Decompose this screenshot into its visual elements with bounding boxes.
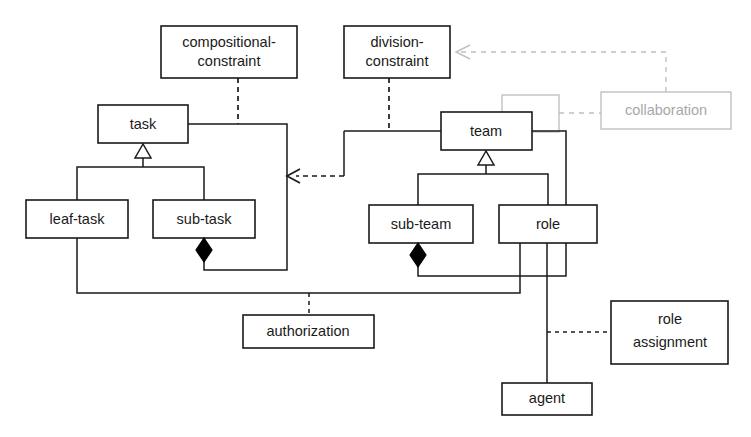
node-authorization[interactable]: authorization bbox=[243, 315, 374, 348]
node-leaf-task[interactable]: leaf-task bbox=[26, 200, 128, 238]
task-label: task bbox=[130, 116, 157, 132]
node-role[interactable]: role bbox=[499, 205, 597, 243]
node-agent[interactable]: agent bbox=[502, 383, 592, 415]
leaf-task-label: leaf-task bbox=[50, 211, 106, 227]
sub-team-composition-diamond bbox=[410, 243, 426, 267]
role-assignment-label-line1: role bbox=[658, 311, 682, 327]
agent-label: agent bbox=[529, 390, 565, 406]
node-sub-team[interactable]: sub-team bbox=[369, 205, 473, 243]
node-division-constraint[interactable]: division- constraint bbox=[344, 26, 450, 78]
team-label: team bbox=[470, 123, 502, 139]
task-generalization-branch bbox=[77, 167, 204, 200]
task-generalization-triangle bbox=[135, 144, 151, 158]
sub-task-composition-diamond bbox=[196, 238, 212, 262]
leaf-task-authorization-path bbox=[77, 238, 520, 293]
diagram-canvas: compositional- constraint division- cons… bbox=[0, 0, 751, 437]
node-compositional-constraint[interactable]: compositional- constraint bbox=[161, 26, 297, 78]
team-generalization-triangle bbox=[478, 151, 494, 165]
node-task[interactable]: task bbox=[98, 105, 188, 143]
node-sub-task[interactable]: sub-task bbox=[153, 200, 255, 238]
role-assignment-label-line2: assignment bbox=[633, 334, 707, 350]
uml-diagram: compositional- constraint division- cons… bbox=[0, 0, 751, 437]
collaboration-division-constraint-link bbox=[461, 52, 666, 92]
collaboration-label: collaboration bbox=[625, 102, 707, 118]
division-constraint-label-line1: division- bbox=[370, 34, 423, 50]
compositional-constraint-label-line1: compositional- bbox=[182, 34, 276, 50]
team-subteam-composition-path bbox=[418, 131, 566, 276]
authorization-label: authorization bbox=[266, 323, 349, 339]
division-constraint-label-line2: constraint bbox=[366, 53, 429, 69]
node-team[interactable]: team bbox=[441, 112, 532, 150]
node-role-assignment[interactable]: role assignment bbox=[611, 301, 728, 364]
team-generalization-branch bbox=[418, 174, 548, 205]
role-label: role bbox=[536, 216, 560, 232]
compositional-constraint-label-line2: constraint bbox=[198, 53, 261, 69]
sub-task-label: sub-task bbox=[177, 211, 233, 227]
sub-team-label: sub-team bbox=[391, 216, 451, 232]
